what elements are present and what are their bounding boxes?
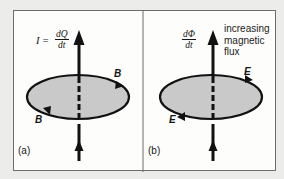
b-field-label-top: B: [114, 68, 121, 79]
panel-label-b: (b): [148, 145, 160, 156]
flux-annotation: increasing magnetic flux: [224, 23, 270, 58]
figure-frame: I = dQ dt B B (a) dΦ dt increasing magne…: [13, 10, 276, 171]
annotation-line-1: increasing: [224, 23, 270, 35]
current-fraction: dQ dt: [55, 29, 69, 50]
panel-a-graphic: [27, 30, 129, 161]
annotation-line-3: flux: [224, 46, 270, 58]
annotation-line-2: magnetic: [224, 35, 270, 47]
axis-arrowhead-lower-icon: [75, 140, 84, 151]
fraction-numerator: dΦ: [182, 29, 196, 40]
b-field-label-bottom: B: [35, 114, 42, 125]
flux-rate-fraction: dΦ dt: [182, 29, 196, 50]
fraction-numerator: dQ: [55, 29, 69, 40]
fraction-denominator: dt: [182, 40, 196, 50]
flux-arrowhead-upper-icon: [208, 30, 219, 45]
e-field-label-top: E: [244, 66, 251, 77]
flux-arrowhead-lower-icon: [209, 140, 218, 151]
current-symbol: I =: [36, 35, 49, 46]
axis-arrowhead-upper-icon: [74, 30, 85, 45]
panel-label-a: (a): [18, 145, 30, 156]
fraction-denominator: dt: [55, 40, 69, 50]
e-field-label-bottom: E: [169, 114, 176, 125]
